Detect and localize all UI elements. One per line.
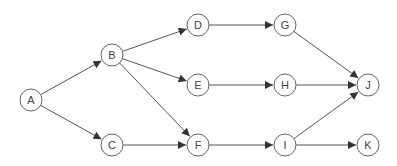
node-c: C	[101, 134, 123, 156]
node-label: D	[194, 19, 202, 31]
node-e: E	[187, 74, 209, 96]
node-f: F	[187, 134, 209, 156]
node-g: G	[274, 14, 296, 36]
node-k: K	[357, 134, 379, 156]
node-label: J	[365, 79, 371, 91]
edge-a-c	[41, 105, 102, 139]
node-label: B	[108, 49, 115, 61]
edge-b-f	[120, 63, 190, 136]
node-j: J	[357, 74, 379, 96]
node-a: A	[20, 89, 42, 111]
node-label: E	[194, 79, 201, 91]
node-label: G	[281, 19, 290, 31]
node-i: I	[274, 134, 296, 156]
edge-b-e	[122, 59, 186, 81]
node-label: H	[281, 79, 289, 91]
node-d: D	[187, 14, 209, 36]
edge-a-b	[41, 61, 102, 95]
node-label: I	[283, 139, 286, 151]
edge-i-j	[294, 92, 358, 139]
edge-b-d	[122, 29, 186, 51]
edge-g-j	[294, 31, 358, 78]
node-b: B	[101, 44, 123, 66]
node-label: F	[195, 139, 202, 151]
node-h: H	[274, 74, 296, 96]
graph-canvas: ABCDEFGHIJK	[0, 0, 397, 166]
node-label: C	[108, 139, 116, 151]
node-label: K	[364, 139, 372, 151]
node-label: A	[27, 94, 35, 106]
